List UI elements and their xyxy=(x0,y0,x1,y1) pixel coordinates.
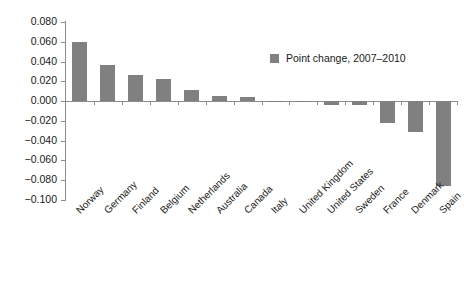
bar xyxy=(72,42,87,101)
x-axis-label-spain: Spain xyxy=(437,190,463,216)
x-tick-mark xyxy=(429,101,430,105)
x-axis-label-belgium: Belgium xyxy=(158,182,191,215)
y-tick-label: 0.080 xyxy=(31,15,57,27)
x-tick-mark xyxy=(122,101,123,105)
y-tick-label: −0.040 xyxy=(25,134,57,146)
y-tick-mark xyxy=(61,42,66,43)
bar xyxy=(380,101,395,123)
y-tick-mark xyxy=(61,81,66,82)
x-tick-mark xyxy=(373,101,374,105)
x-tick-mark xyxy=(345,101,346,105)
x-tick-mark xyxy=(178,101,179,105)
y-tick-mark xyxy=(61,101,66,102)
y-tick-mark xyxy=(61,141,66,142)
x-tick-mark xyxy=(317,101,318,105)
y-axis-line xyxy=(65,21,66,201)
bar xyxy=(352,101,367,105)
x-tick-mark xyxy=(234,101,235,105)
y-tick-label: −0.080 xyxy=(25,173,57,185)
x-tick-mark xyxy=(289,101,290,105)
y-tick-mark xyxy=(61,200,66,201)
x-axis-label-norway: Norway xyxy=(74,184,106,216)
bar xyxy=(212,96,227,101)
bar xyxy=(408,101,423,132)
chart-legend: Point change, 2007–2010 xyxy=(270,52,406,64)
bar xyxy=(436,101,451,186)
y-tick-mark xyxy=(61,160,66,161)
legend-swatch-point-change xyxy=(270,54,279,63)
y-tick-label: 0.040 xyxy=(31,55,57,67)
x-tick-mark xyxy=(150,101,151,105)
y-tick-label: 0.060 xyxy=(31,35,57,47)
bar xyxy=(128,75,143,101)
x-tick-mark xyxy=(457,101,458,105)
y-tick-label: −0.100 xyxy=(25,193,57,205)
x-tick-mark xyxy=(94,101,95,105)
y-tick-mark xyxy=(61,22,66,23)
x-tick-mark xyxy=(401,101,402,105)
bar xyxy=(296,101,311,102)
bar xyxy=(184,90,199,101)
bar xyxy=(324,101,339,105)
x-tick-mark xyxy=(206,101,207,105)
bar xyxy=(240,97,255,101)
bar xyxy=(156,79,171,101)
y-tick-label: −0.020 xyxy=(25,114,57,126)
x-tick-mark xyxy=(262,101,263,105)
legend-label-point-change: Point change, 2007–2010 xyxy=(286,52,406,64)
y-tick-label: 0.000 xyxy=(31,94,57,106)
bar-chart: 0.0800.0600.0400.0200.000−0.020−0.040−0.… xyxy=(0,0,469,282)
y-tick-label: 0.020 xyxy=(31,74,57,86)
y-tick-mark xyxy=(61,180,66,181)
x-axis-label-italy: Italy xyxy=(269,195,290,216)
bar xyxy=(268,101,283,102)
y-tick-mark xyxy=(61,121,66,122)
y-tick-label: −0.060 xyxy=(25,153,57,165)
y-tick-mark xyxy=(61,62,66,63)
bar xyxy=(100,65,115,101)
